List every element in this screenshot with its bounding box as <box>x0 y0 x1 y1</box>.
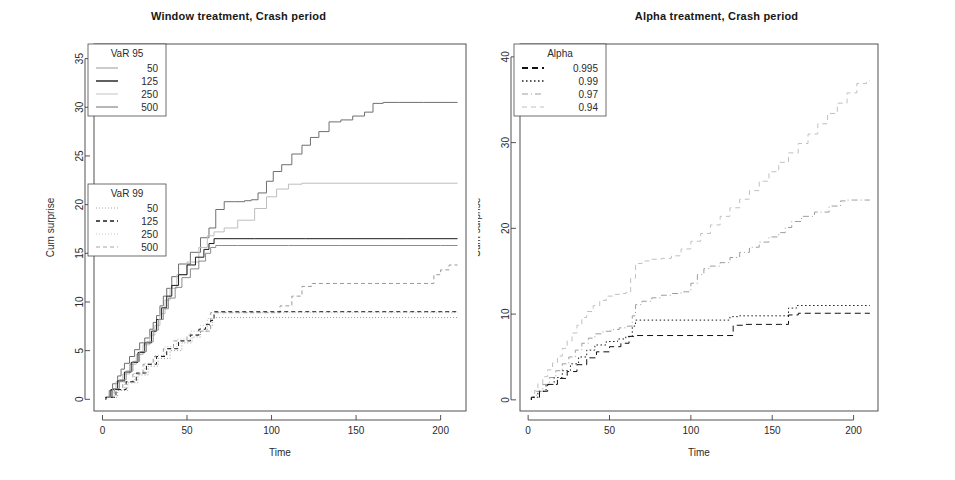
series-line <box>531 313 869 400</box>
panel-window-treatment: Window treatment, Crash period 051015202… <box>0 0 477 480</box>
legend-label: 0.99 <box>579 76 599 87</box>
y-tick-label: 20 <box>500 222 511 234</box>
x-tick-label: 50 <box>181 425 193 436</box>
x-tick-label: 0 <box>100 425 106 436</box>
x-tick-label: 0 <box>525 425 531 436</box>
legend-title-var95: VaR 95 <box>111 48 144 59</box>
y-tick-label: 20 <box>74 199 85 211</box>
y-tick-label: 25 <box>74 150 85 162</box>
panel-alpha-treatment: Alpha treatment, Crash period 0102030400… <box>478 0 955 480</box>
legend-label: 50 <box>147 63 159 74</box>
y-tick-label: 30 <box>500 137 511 149</box>
y-axis-title: Cum surprise <box>478 197 482 257</box>
x-tick-label: 200 <box>432 425 449 436</box>
legend-label: 50 <box>147 203 159 214</box>
x-axis-title: Time <box>269 447 291 458</box>
y-tick-label: 15 <box>74 247 85 259</box>
legend-label: 250 <box>141 89 158 100</box>
y-tick-label: 0 <box>74 396 85 402</box>
x-tick-label: 50 <box>604 425 616 436</box>
x-tick-label: 100 <box>263 425 280 436</box>
chart-window-treatment: 05101520253035050100150200TimeCum surpri… <box>0 0 477 480</box>
y-tick-label: 10 <box>500 308 511 320</box>
legend-title-var99: VaR 99 <box>111 188 144 199</box>
x-axis-title: Time <box>688 447 710 458</box>
x-tick-label: 200 <box>845 425 862 436</box>
figure-root: Window treatment, Crash period 051015202… <box>0 0 955 480</box>
y-tick-label: 0 <box>500 397 511 403</box>
x-tick-label: 150 <box>764 425 781 436</box>
series-line <box>106 265 458 399</box>
series-line <box>531 81 869 400</box>
y-tick-label: 30 <box>74 101 85 113</box>
legend-label: 500 <box>141 242 158 253</box>
y-tick-label: 5 <box>74 347 85 353</box>
legend-label: 0.995 <box>573 63 598 74</box>
y-tick-label: 40 <box>500 51 511 63</box>
legend-label: 125 <box>141 76 158 87</box>
legend-label: 250 <box>141 229 158 240</box>
legend-label: 125 <box>141 216 158 227</box>
x-tick-label: 150 <box>348 425 365 436</box>
y-tick-label: 10 <box>74 296 85 308</box>
legend-label: 0.97 <box>579 89 599 100</box>
series-line <box>531 200 869 400</box>
y-axis-title: Cum surprise <box>45 197 56 257</box>
chart-alpha-treatment: 010203040050100150200TimeCum surpriseAlp… <box>478 0 955 480</box>
y-tick-label: 35 <box>74 53 85 65</box>
legend-title-alpha: Alpha <box>547 48 573 59</box>
legend-label: 500 <box>141 102 158 113</box>
series-line <box>106 246 458 400</box>
x-tick-label: 100 <box>683 425 700 436</box>
legend-label: 0.94 <box>579 102 599 113</box>
